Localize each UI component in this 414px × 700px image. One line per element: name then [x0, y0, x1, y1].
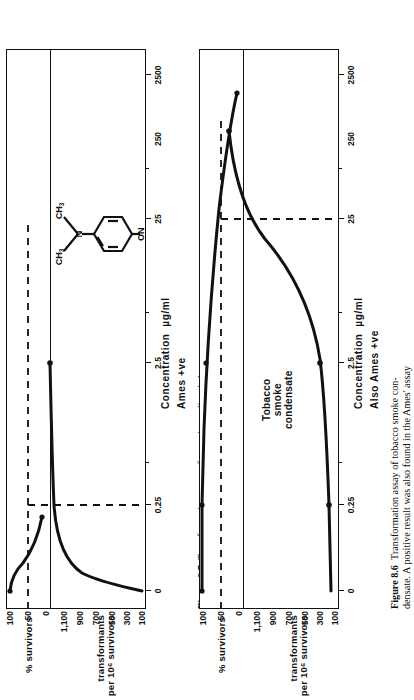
chemical-structure-paranitrosodimethylaniline: CH3 CH3 N — [54, 159, 140, 309]
y-tick-label: 100 — [330, 611, 340, 625]
survivors-point-8-6 — [199, 588, 204, 593]
figure-8-7: CH3 CH3 N ON 0 0.25 2.5 — [0, 0, 193, 667]
plot-area-8-6: Tobaccosmokecondensate 0 0.25 2.5 25 250… — [199, 49, 339, 609]
y-axis-title-transformants: transformantsper 10⁶ survivors — [96, 615, 116, 700]
y-axis-title-survivors: % survivors — [24, 617, 34, 677]
x-tick-label: 250 — [153, 132, 163, 146]
x-tick-label: 0 — [346, 589, 356, 594]
y-tick-label: 100 — [137, 611, 147, 625]
y-tick-label: 1,100 — [252, 611, 262, 632]
transformants-point-8-7 — [47, 360, 53, 366]
x-tick-label: 25 — [153, 214, 163, 223]
y-tick-label: 100 — [5, 611, 15, 625]
x-axis-8-6: 0 0.25 2.5 25 250 2500 — [339, 49, 340, 609]
y-axis-title-transformants-l3: survivors — [298, 615, 309, 660]
transformants-curve-8-7 — [50, 363, 142, 591]
survivors-point-8-7 — [39, 514, 44, 519]
ames-annotation-8-7: Ames +ve — [176, 357, 187, 409]
survivors-curve-8-6 — [202, 93, 237, 591]
y-tick-label: 1,100 — [59, 611, 69, 632]
sample-label-8-6: Tobaccosmokecondensate — [261, 370, 295, 429]
y-axis-title-transformants-l2: per 10⁶ — [298, 662, 309, 696]
y-tick-label: 900 — [268, 611, 278, 625]
chem-label-ch3-a: CH3 — [54, 248, 65, 265]
y-axis-title-transformants-l2: per 10⁶ — [105, 662, 116, 696]
transformants-point-8-6 — [326, 502, 332, 508]
x-tick-label: 2500 — [153, 66, 163, 85]
ames-annotation-8-6: Also Ames +ve — [369, 330, 380, 409]
survivors-point-8-6 — [234, 90, 239, 95]
survivors-point-8-6 — [199, 502, 204, 507]
x-tick-label: 25 — [346, 214, 356, 223]
x-axis-8-7: 0 0.25 2.5 25 250 2500 — [146, 49, 147, 609]
figure-caption-8-6: Figure 8.6 Transformation assay of tobac… — [389, 89, 414, 609]
survivors-point-8-6 — [203, 360, 208, 365]
y-tick-label: 900 — [75, 611, 85, 625]
y-tick-label: 100 — [198, 611, 208, 625]
figure-number-8-6: Figure 8.6 — [389, 565, 400, 609]
y-axis-title-transformants: transformantsper 10⁶ survivors — [289, 615, 309, 700]
transformants-point-8-6 — [226, 128, 232, 134]
chem-label-no: ON — [136, 228, 146, 242]
x-axis-title: Concentration µg/ml — [353, 297, 364, 409]
transformants-point-8-6 — [317, 360, 323, 366]
survivors-curve-8-7 — [10, 517, 42, 591]
x-tick-label: 0.25 — [346, 497, 356, 514]
x-tick-label: 0 — [153, 589, 163, 594]
plot-area-8-7: CH3 CH3 N ON 0 0.25 2.5 — [6, 49, 146, 609]
x-tick-label: 2500 — [346, 66, 356, 85]
chem-label-ch3-b: CH3 — [54, 202, 65, 219]
x-axis-title: Concentration µg/ml — [160, 297, 171, 409]
y-axis-title-transformants-l3: survivors — [105, 615, 116, 660]
y-axis-title-survivors: % survivors — [217, 617, 227, 677]
y-tick-label: 0 — [234, 611, 244, 616]
x-tick-label: 250 — [346, 132, 356, 146]
curves-8-7 — [6, 49, 146, 609]
figure-8-6: Tobaccosmokecondensate 0 0.25 2.5 25 250… — [193, 0, 386, 667]
y-tick-label: 300 — [315, 611, 325, 625]
x-tick-label: 0.25 — [153, 497, 163, 514]
transformants-curve-8-6 — [229, 131, 331, 591]
curves-8-6 — [199, 49, 339, 609]
y-tick-label: 0 — [41, 611, 51, 616]
y-tick-label: 300 — [122, 611, 132, 625]
chem-label-n: N — [73, 230, 84, 237]
survivors-point-8-7 — [7, 588, 12, 593]
